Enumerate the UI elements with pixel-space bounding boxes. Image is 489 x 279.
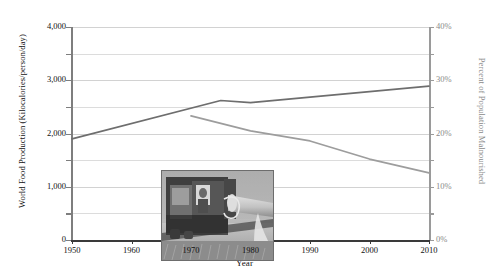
x-axis-tick [370,240,371,244]
y-axis-left-tick [66,107,71,108]
y-axis-right-title: Percent of Population Malnourished [477,11,487,231]
y-axis-right-tick [429,80,434,81]
x-axis-tick-label: 1960 [112,245,152,255]
y-axis-left-tick [66,134,71,135]
chart-figure: World Food Production (Kilocalories/pers… [0,0,489,279]
y-axis-left-tick [66,187,71,188]
y-axis-left-title: World Food Production (Kilocalories/pers… [17,11,27,231]
y-axis-right-tick [429,134,434,135]
x-axis-tick [429,240,430,244]
x-axis-tick-label: 1980 [231,245,271,255]
x-axis-tick [310,240,311,244]
y-axis-left-tick [66,213,71,214]
y-axis-right-tick [429,160,434,161]
y-axis-left-tick [66,54,71,55]
x-axis-tick-label: 1990 [290,245,330,255]
plot-area: 01,0002,0003,0004,0000%10%20%30%40%19501… [72,27,429,240]
y-axis-right-tick-label: 0% [436,234,447,244]
y-axis-right-tick [429,107,434,108]
x-axis-tick-label: 1970 [171,245,211,255]
line-percent-malnourished [191,116,429,173]
x-axis-tick-label: 2000 [350,245,390,255]
y-axis-right-tick [429,54,434,55]
x-axis-tick [72,240,73,244]
y-axis-left-tick-label: 4,000 [47,21,66,31]
y-axis-right-tick-label: 10% [436,181,452,191]
y-axis-left-tick-label: 3,000 [47,74,66,84]
y-axis-left-tick-label: 1,000 [47,181,66,191]
y-axis-right-tick [429,27,434,28]
y-axis-left-tick [66,240,71,241]
x-axis-tick-label: 1950 [52,245,92,255]
y-axis-right-tick [429,187,434,188]
y-axis-left-tick [66,160,71,161]
y-axis-right-tick-label: 40% [436,21,452,31]
y-axis-left-tick [66,80,71,81]
y-axis-left-tick [66,27,71,28]
y-axis-right-tick [429,213,434,214]
y-axis-left-tick-label: 2,000 [47,128,66,138]
x-axis-tick [132,240,133,244]
y-axis-right-tick-label: 20% [436,128,452,138]
y-axis-right-tick-label: 30% [436,74,452,84]
y-axis-left-tick-label: 0 [62,234,66,244]
x-axis-tick-label: 2010 [409,245,449,255]
